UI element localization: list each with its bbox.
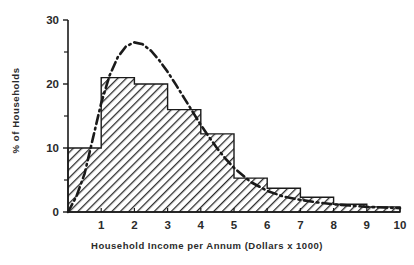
x-tick-label: 4 [198, 219, 205, 231]
x-tick-label: 1 [98, 219, 105, 231]
y-tick-label: 10 [46, 142, 59, 154]
y-tick-label: 0 [53, 206, 59, 218]
x-axis-tick-labels: 12345678910 [98, 219, 406, 231]
y-axis-tick-labels: 0102030 [46, 14, 59, 218]
histogram-bars [68, 78, 400, 212]
x-tick-label: 9 [364, 219, 370, 231]
y-tick-label: 30 [46, 14, 59, 26]
x-tick-label: 7 [297, 219, 303, 231]
x-axis-label: Household Income per Annum (Dollars x 10… [0, 240, 414, 251]
x-tick-label: 5 [231, 219, 238, 231]
x-tick-label: 6 [264, 219, 270, 231]
y-tick-label: 20 [46, 78, 59, 90]
x-tick-label: 2 [131, 219, 137, 231]
histogram-plot: 12345678910 0102030 [0, 0, 414, 265]
x-tick-label: 10 [394, 219, 407, 231]
bars-outline [68, 78, 400, 212]
x-tick-label: 3 [164, 219, 170, 231]
chart-figure: % of Households 12345678910 0102030 Hous… [0, 0, 414, 265]
x-tick-label: 8 [330, 219, 337, 231]
